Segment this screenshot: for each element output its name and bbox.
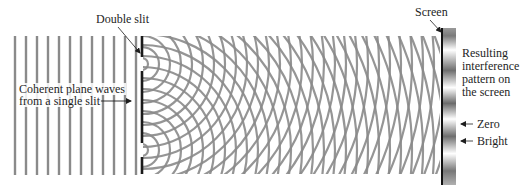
- double-slit-label: Double slit: [96, 13, 149, 25]
- result-label-line4: the screen: [462, 86, 510, 98]
- zero-label: Zero: [477, 118, 500, 130]
- result-label-line3: pattern on: [462, 73, 510, 85]
- bright-label: Bright: [477, 135, 508, 147]
- double-slit-diagram: Double slit Coherent plane waves from a …: [0, 0, 532, 192]
- interference-pattern: [443, 28, 456, 185]
- screen-arrow: [430, 20, 441, 32]
- result-label-line1: Resulting: [462, 47, 508, 59]
- plane-waves-label-line2: from a single slit: [18, 95, 101, 107]
- result-label-line2: interference: [462, 60, 519, 72]
- screen-label: Screen: [415, 6, 448, 18]
